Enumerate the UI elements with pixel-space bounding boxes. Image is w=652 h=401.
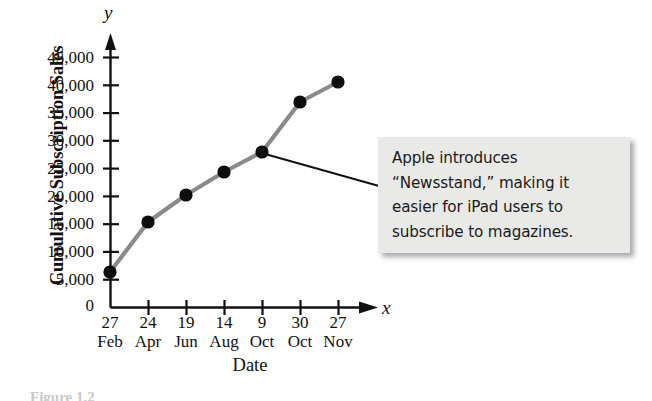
y-tick-label-5000: 5,000 [8,271,94,288]
x-tick-day-6: 27 [316,313,360,332]
annotation-callout-box: Apple introduces “Newsstand,” making it … [378,137,630,253]
data-point-27-feb [103,265,116,278]
data-point-27-nov [331,75,344,88]
y-tick-label-35000: 35,000 [8,104,94,121]
data-point-14-aug [217,165,230,178]
y-tick-label-45000: 45,000 [8,49,94,66]
x-tick-label-27-nov: 27 Nov [316,313,360,352]
y-tick-label-40000: 40,000 [8,77,94,94]
data-point-9-oct [255,145,268,158]
y-tick-label-25000: 25,000 [8,160,94,177]
annotation-line-0: Apple introduces [392,149,518,167]
figure-root: Cumulative Subscription Sales 45,000 40,… [0,0,652,401]
data-point-30-oct [293,95,306,108]
data-point-19-jun [179,188,192,201]
x-tick-month-6: Nov [316,332,360,352]
annotation-leader-line [265,154,379,186]
y-tick-label-30000: 30,000 [8,132,94,149]
data-point-24-apr [141,215,154,228]
annotation-line-3: subscribe to magazines. [392,223,573,241]
y-tick-label-20000: 20,000 [8,188,94,205]
figure-caption: Figure 1.2 [30,389,95,401]
y-tick-label-0: 0 [8,297,94,314]
x-axis-title: Date [150,355,350,376]
annotation-line-1: “Newsstand,” making it [392,174,569,192]
x-axis-variable-letter: x [382,297,390,319]
annotation-line-2: easier for iPad users to [392,198,563,216]
annotation-callout-text: Apple introduces “Newsstand,” making it … [392,146,620,244]
y-axis-variable-letter: y [104,2,112,24]
data-point-markers [103,75,344,278]
y-tick-label-10000: 10,000 [8,243,94,260]
y-tick-label-15000: 15,000 [8,215,94,232]
